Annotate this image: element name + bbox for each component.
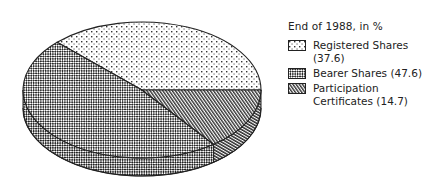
legend-item-registered-shares: Registered Shares (37.6) (288, 39, 438, 65)
legend-item-bearer-shares: Bearer Shares (47.6) (288, 67, 438, 80)
legend: End of 1988, in % Registered Shares (37.… (288, 20, 438, 110)
dots-pattern-swatch-icon (288, 40, 306, 51)
crosshatch-pattern-swatch-icon (288, 68, 306, 79)
legend-label-line2: Certificates (14.7) (313, 95, 408, 107)
legend-label-bearer-shares: Bearer Shares (47.6) (313, 67, 422, 80)
pie-chart: End of 1988, in % Registered Shares (37.… (0, 0, 441, 186)
diagonal-hatch-pattern-swatch-icon (288, 83, 306, 94)
legend-label-registered-shares: Registered Shares (37.6) (313, 39, 438, 65)
legend-label-participation-certificates: Participation Certificates (14.7) (313, 82, 408, 108)
legend-item-participation-certificates: Participation Certificates (14.7) (288, 82, 438, 108)
legend-title: End of 1988, in % (288, 20, 438, 33)
legend-label-line1: Participation (313, 82, 379, 94)
